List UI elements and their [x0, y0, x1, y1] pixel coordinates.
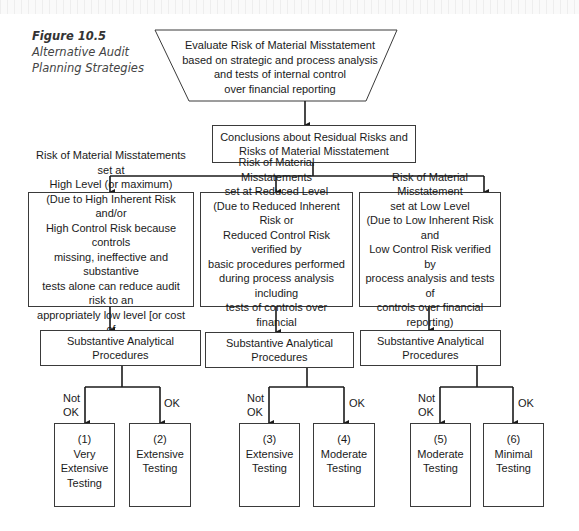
risk-low-box: Risk of Material Misstatement set at Low… [359, 192, 501, 307]
analytical-box-low: Substantive Analytical Procedures [360, 330, 501, 366]
analytical-box-reduced: Substantive Analytical Procedures [205, 332, 354, 368]
analytical-box-high: Substantive Analytical Procedures [40, 330, 201, 366]
risk-reduced-box: Risk of Material Misstatements set at Re… [200, 192, 353, 307]
ok-label-2: OK [349, 396, 365, 410]
risk-high-box: Risk of Material Misstatements set at Hi… [28, 192, 194, 307]
start-evaluate-text: Evaluate Risk of Material Misstatement b… [175, 38, 385, 96]
outcome-box-2: (2) Extensive Testing [129, 423, 191, 507]
not-ok-label-1: Not OK [63, 391, 80, 419]
outcome-box-6: (6) Minimal Testing [483, 423, 544, 507]
outcome-box-1: (1) Very Extensive Testing [54, 423, 115, 507]
outcome-box-3: (3) Extensive Testing [239, 423, 300, 507]
ok-label-3: OK [518, 396, 534, 410]
outcome-box-4: (4) Moderate Testing [313, 423, 375, 507]
not-ok-label-2: Not OK [247, 391, 264, 419]
outcome-box-5: (5) Moderate Testing [410, 423, 471, 507]
not-ok-label-3: Not OK [418, 391, 435, 419]
ok-label-1: OK [164, 396, 180, 410]
